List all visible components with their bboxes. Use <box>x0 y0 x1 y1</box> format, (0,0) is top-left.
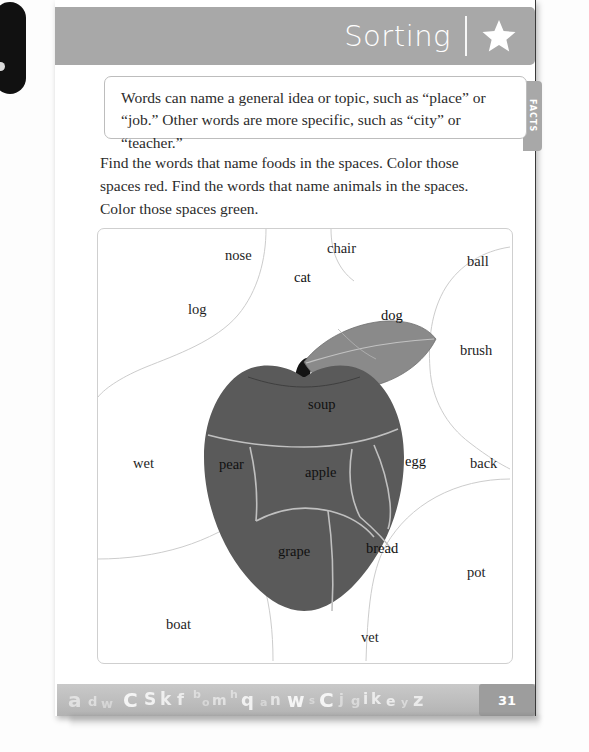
decorative-letter: h <box>230 689 238 700</box>
page-title: Sorting <box>344 22 451 51</box>
puzzle-word-outside: ball <box>467 253 489 269</box>
decorative-letter: g <box>351 694 360 707</box>
decorative-letter: w <box>287 691 305 710</box>
decorative-letter: q <box>241 691 254 709</box>
decorative-letter: k <box>371 692 381 707</box>
decorative-letter: b <box>193 689 201 700</box>
instructions-line-1: Find the words that name foods in the sp… <box>100 152 510 175</box>
page-header: Sorting <box>55 7 535 65</box>
decorative-letters: adwCSkfbomhqanwsCjgikeyz <box>57 684 487 716</box>
decorative-letter: z <box>413 691 423 709</box>
decorative-letter: n <box>270 693 281 708</box>
decorative-letter: S <box>144 691 156 708</box>
decorative-letter: m <box>212 693 227 707</box>
instructions: Find the words that name foods in the sp… <box>100 152 510 220</box>
decorative-letter: o <box>202 697 210 708</box>
puzzle-graphic: catdogsouppearappleegggrapebread nosecha… <box>98 229 510 661</box>
puzzle-word-outside: wet <box>133 455 154 471</box>
facts-line-2: “job.” Other words are more specific, su… <box>121 109 510 154</box>
decorative-letter: e <box>386 694 396 708</box>
binder-clip-icon <box>0 2 26 94</box>
puzzle-word-inside: soup <box>308 396 335 412</box>
decorative-letter: f <box>177 692 184 708</box>
facts-text: Words can name a general idea or topic, … <box>105 77 526 154</box>
decorative-letter: d <box>88 695 97 708</box>
page-shadow <box>70 716 540 728</box>
puzzle-word-inside: grape <box>278 543 310 559</box>
puzzle-word-outside: pot <box>467 564 486 580</box>
facts-line-1: Words can name a general idea or topic, … <box>121 87 510 109</box>
puzzle-word-outside: vet <box>361 629 379 645</box>
puzzle-word-outside: boat <box>166 616 191 632</box>
decorative-letter: a <box>260 697 267 708</box>
decorative-letter: i <box>363 692 368 707</box>
puzzle-word-inside: egg <box>405 453 426 469</box>
facts-callout: FACTS Words can name a general idea or t… <box>104 76 527 139</box>
puzzle-word-inside: bread <box>366 540 399 556</box>
puzzle-word-outside: back <box>470 455 498 471</box>
header-divider <box>465 16 467 56</box>
decorative-letter: y <box>401 697 408 708</box>
puzzle-word-outside: chair <box>327 240 356 256</box>
decorative-letter: C <box>319 690 334 710</box>
page-footer: adwCSkfbomhqanwsCjgikeyz 31 <box>57 684 535 716</box>
apple-shape[interactable] <box>204 365 404 611</box>
puzzle-word-outside: nose <box>225 247 252 263</box>
decorative-letter: s <box>309 696 315 706</box>
star-icon <box>481 18 517 54</box>
decorative-letter: w <box>101 697 113 710</box>
instructions-line-2: spaces red. Find the words that name ani… <box>100 175 510 198</box>
facts-box: Words can name a general idea or topic, … <box>104 76 527 139</box>
puzzle-word-inside: apple <box>305 464 336 480</box>
facts-tab-label: FACTS <box>528 99 537 132</box>
decorative-letter: C <box>123 690 138 710</box>
puzzle-word-outside: log <box>188 301 207 317</box>
puzzle-word-inside: cat <box>294 269 311 285</box>
puzzle-word-inside: dog <box>381 307 403 323</box>
instructions-line-3: Color those spaces green. <box>100 198 510 221</box>
page-number-badge: 31 <box>479 684 535 716</box>
page-number: 31 <box>498 693 516 708</box>
puzzle-word-outside: brush <box>460 342 493 358</box>
decorative-letter: j <box>339 692 344 706</box>
decorative-letter: a <box>68 690 82 710</box>
decorative-letter: k <box>160 691 171 708</box>
puzzle-word-inside: pear <box>219 456 244 472</box>
binder-notch <box>0 62 5 71</box>
coloring-puzzle[interactable]: catdogsouppearappleegggrapebread nosecha… <box>97 228 513 664</box>
